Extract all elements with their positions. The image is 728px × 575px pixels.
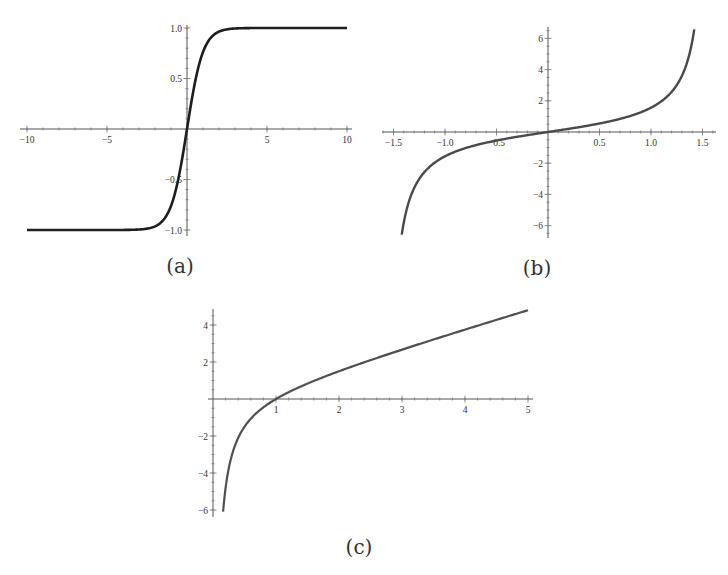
y-tick-label: 0.5 [170,74,182,84]
figure-canvas: −10−55101.00.5−0.5−1.0 −1.5−1.0−0.50.51.… [0,0,728,575]
plot-a-tanh: −10−55101.00.5−0.5−1.0 [20,24,352,237]
y-tick-label: −4 [198,469,208,479]
y-tick-label: 4 [203,321,208,331]
y-tick-label: −1.0 [165,226,182,236]
x-tick-label: 1.5 [697,138,709,148]
x-tick-label: 4 [463,405,468,415]
caption-c: (c) [346,535,373,559]
y-tick-label: 2 [538,96,543,106]
x-tick-label: −5 [102,135,112,145]
y-tick-label: 6 [538,34,543,44]
y-tick-label: 2 [203,358,208,368]
y-tick-label: −6 [198,506,208,516]
y-tick-label: −6 [533,221,543,231]
x-tick-label: 10 [342,135,352,145]
x-tick-label: 1 [274,405,279,415]
curve-line [223,310,528,511]
x-tick-label: 5 [265,135,270,145]
x-tick-label: 5 [526,405,531,415]
x-tick-label: −1.0 [436,138,453,148]
y-tick-label: 1.0 [170,24,182,34]
caption-b: (b) [523,256,551,280]
plot-c-x-minus-inverse-x: 1234542−2−4−6 [198,309,533,517]
y-tick-label: −2 [198,432,208,442]
caption-a: (a) [166,254,194,278]
y-tick-label: −4 [533,190,543,200]
x-tick-label: −1.5 [385,138,402,148]
x-tick-label: 1.0 [645,138,657,148]
y-tick-label: 4 [538,65,543,75]
x-tick-label: −10 [20,135,35,145]
plot-b-tan: −1.5−1.0−0.50.51.01.5642−2−4−6 [382,27,716,238]
x-tick-label: 0.5 [594,138,606,148]
x-tick-label: 2 [337,405,342,415]
y-tick-label: −2 [533,159,543,169]
x-tick-label: 3 [400,405,405,415]
